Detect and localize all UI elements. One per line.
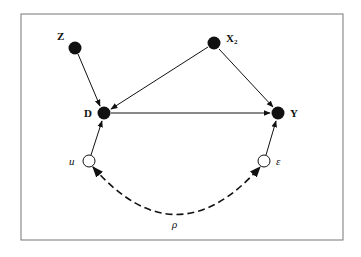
label-d: D (84, 107, 92, 119)
edge-x2-to-y (219, 49, 273, 107)
node-y (272, 107, 285, 120)
edge-u-eps-correlation (93, 167, 260, 215)
label-x2: X2 (226, 32, 238, 46)
node-x2 (208, 37, 221, 50)
label-y: Y (290, 107, 298, 119)
node-u (83, 155, 95, 167)
edge-u-to-d (91, 121, 102, 155)
node-eps (258, 155, 270, 167)
edge-z-to-d (78, 54, 100, 106)
label-z: Z (57, 30, 64, 42)
label-rho: ρ (171, 218, 177, 230)
causal-diagram: Z X2 D Y u ε ρ (0, 0, 361, 257)
label-eps: ε (276, 155, 281, 167)
node-d (98, 107, 111, 120)
edge-x2-to-d (111, 47, 208, 109)
label-u: u (69, 155, 75, 167)
node-z (69, 42, 82, 55)
edge-eps-to-y (266, 121, 276, 155)
